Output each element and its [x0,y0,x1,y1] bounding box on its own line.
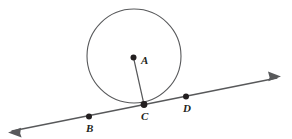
point-label-C: C [141,110,149,122]
point-D-dot [183,94,189,100]
geometry-diagram-svg: A B C D [0,0,292,139]
point-label-B: B [85,122,93,134]
point-C-dot [141,101,148,108]
point-A-dot [131,55,137,61]
point-B-dot [86,114,92,120]
point-label-A: A [140,54,148,66]
arrow-head-right-icon [268,72,281,82]
arrow-head-left-icon [8,128,22,138]
point-label-D: D [182,102,191,114]
geometry-figure: A B C D [0,0,292,139]
